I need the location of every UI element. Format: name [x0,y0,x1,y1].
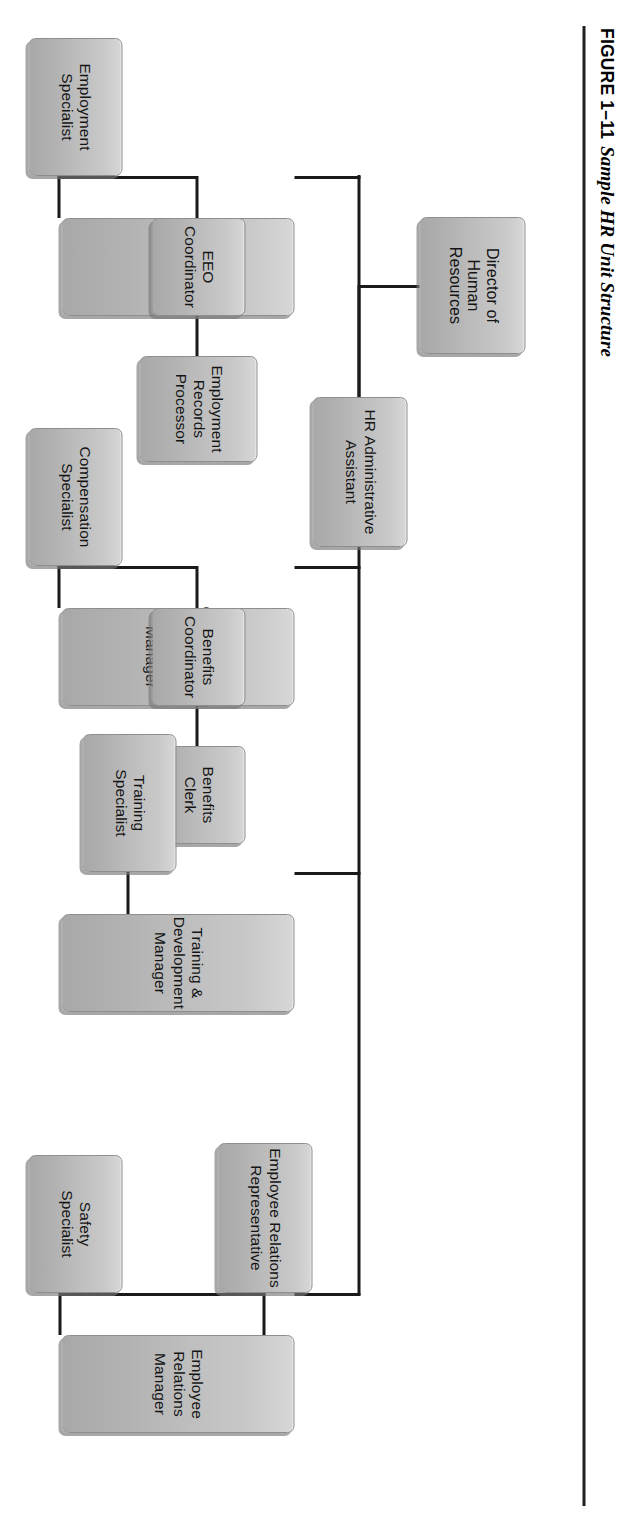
connector-drop-emprel [294,1293,360,1296]
connector-emprel-to-rep [262,1293,265,1335]
node-emp-records-line2: Records [189,365,207,452]
connector-compben-bus [57,566,197,569]
node-training-development-manager[interactable]: Training & Development Manager [61,914,294,1012]
node-safety-line1: Safety [75,1190,93,1257]
node-emprel-rep-line1: Employee Relations [265,1148,283,1288]
node-ben-clerk-line1: Benefits [198,767,216,824]
node-safety-specialist[interactable]: Safety Specialist [28,1155,122,1293]
figure-label: FIGURE 1–11 [596,28,616,139]
node-emprel-line1: Employee Relations [168,1340,205,1428]
node-comp-spec-line2: Specialist [57,446,75,547]
connector-training-to-trainspec [126,872,129,914]
node-ben-coord-line1: Benefits [198,616,216,698]
node-emprel-rep-line2: Representative [246,1148,264,1288]
connector-bencoord-to-benclerk [195,706,198,746]
connector-main-spine [357,175,360,1295]
org-chart: Director of Human Resources HR Administr… [0,0,577,1534]
node-emp-records-line1: Employment [207,365,225,452]
figure-page: FIGURE 1–11Sample HR Unit Structure [0,0,643,1534]
figure-title: Sample HR Unit Structure [596,146,617,357]
node-training-line1: Training & [187,917,205,1009]
caption-rule [582,26,585,1506]
node-ben-coord-line2: Coordinator [180,616,198,698]
node-emprel-line2: Manager [150,1340,168,1428]
connector-employment-bus [57,176,197,179]
figure-stage: FIGURE 1–11Sample HR Unit Structure [0,0,643,1534]
node-employee-relations-manager[interactable]: Employee Relations Manager [61,1335,294,1433]
connector-compben-to-bencoord [195,566,198,608]
connector-emprel-to-safety [58,1293,61,1335]
node-train-spec-line2: Specialist [111,769,129,836]
connector-drop-compben [294,566,360,569]
node-training-specialist[interactable]: Training Specialist [82,734,176,872]
node-eeo-coordinator[interactable]: EEO Coordinator [151,218,245,316]
node-emp-records-line3: Processor [171,365,189,452]
node-emp-spec-line2: Specialist [57,63,75,150]
node-employee-relations-representative[interactable]: Employee Relations Representative [217,1143,312,1293]
node-comp-spec-line1: Compensation [75,446,93,547]
connector-emprel-bus [59,1293,265,1296]
connector-drop-employment [294,176,360,179]
node-compensation-specialist[interactable]: Compensation Specialist [28,428,122,566]
node-ben-clerk-line2: Clerk [180,767,198,824]
connector-director-stem [359,285,419,288]
figure-caption: FIGURE 1–11Sample HR Unit Structure [595,28,617,357]
node-eeo-line2: Coordinator [180,226,198,308]
node-director-line1: Director of [481,222,500,349]
node-benefits-coordinator[interactable]: Benefits Coordinator [151,608,245,706]
connector-eeo-to-records [195,316,198,356]
node-director[interactable]: Director of Human Resources [419,217,525,354]
node-emp-spec-line1: Employment [75,63,93,150]
node-employment-specialist[interactable]: Employment Specialist [28,38,122,176]
node-hr-administrative-assistant[interactable]: HR Administrative Assistant [312,397,407,547]
node-train-spec-line1: Training [129,769,147,836]
connector-compben-to-compspec [57,566,60,608]
node-employment-records-processor[interactable]: Employment Records Processor [139,356,257,462]
node-director-line2: Human Resources [444,222,482,349]
node-hr-admin-line2: Assistant [341,410,359,535]
node-hr-admin-line1: HR Administrative [360,410,378,535]
node-training-line2: Development Manager [150,917,187,1009]
node-safety-line2: Specialist [57,1190,75,1257]
connector-employment-to-eeo [195,176,198,218]
node-eeo-line1: EEO [198,226,216,308]
connector-employment-to-spec [57,176,60,218]
connector-drop-training [294,872,360,875]
